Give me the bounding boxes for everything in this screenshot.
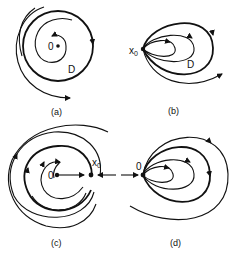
equilibrium-point-x0 [89,173,94,178]
equilibrium-point-0 [56,44,60,48]
panel-d-caption: (d) [170,238,181,248]
panel-a [16,7,93,98]
panel-d-point-label: 0 [136,161,142,172]
equilibrium-point-x0 [141,47,145,51]
panel-a-point-label: 0 [48,41,54,52]
phase-portraits-diagram: 0 D (a) x0 D (b) 0 x0 (c) [0,0,237,254]
panel-c-origin-label: 0 [48,170,54,181]
equilibrium-point-0 [141,173,146,178]
panel-b [141,23,222,83]
panel-c [9,125,116,228]
panel-b-point-label: x0 [129,45,138,57]
panel-d [121,137,228,219]
panel-a-region-label: D [68,64,75,75]
panel-c-caption: (c) [51,238,62,248]
equilibrium-point-origin [55,173,59,177]
panel-a-caption: (a) [51,107,62,117]
panel-b-caption: (b) [168,106,179,116]
panel-b-region-label: D [187,59,194,70]
